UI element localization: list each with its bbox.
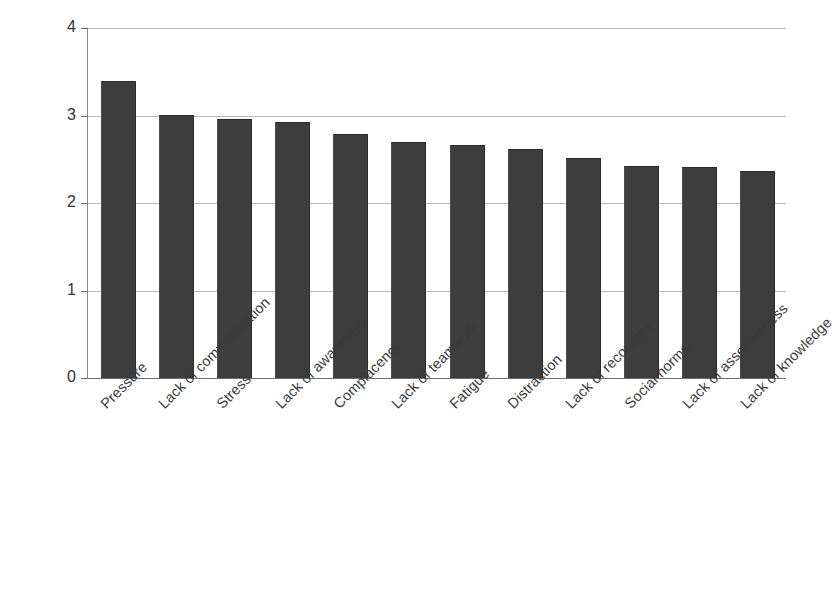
bar[interactable]: [275, 122, 310, 379]
y-axis-tick-label: 1: [40, 282, 76, 298]
y-axis-tick-label: 2: [40, 194, 76, 210]
y-axis-tick-mark: [81, 28, 88, 29]
bar[interactable]: [566, 158, 601, 378]
bar[interactable]: [508, 149, 543, 378]
y-axis-tick-mark: [81, 203, 88, 204]
y-axis-tick-mark: [81, 378, 88, 379]
y-axis-tick-label: 0: [40, 369, 76, 385]
bar[interactable]: [159, 115, 194, 379]
bar[interactable]: [101, 81, 136, 378]
gridline: [88, 28, 786, 29]
y-axis-tick-mark: [81, 291, 88, 292]
y-axis-tick-label: 4: [40, 19, 76, 35]
y-axis-tick-label: 3: [40, 107, 76, 123]
y-axis-tick-labels: 01234: [40, 0, 76, 600]
y-axis-tick-mark: [81, 116, 88, 117]
plot-area: [88, 28, 786, 378]
